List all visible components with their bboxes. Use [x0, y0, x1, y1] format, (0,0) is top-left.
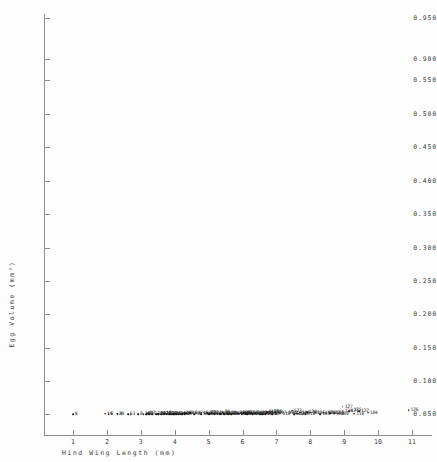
- data-point-label: 3: [132, 412, 135, 417]
- data-point-marker: [338, 413, 340, 415]
- data-point-marker: [211, 412, 213, 414]
- data-point-label: 122: [361, 409, 369, 414]
- data-point-marker: [237, 413, 239, 415]
- data-point-layer: 9645381272111020193133303837353936343241…: [0, 0, 437, 462]
- data-point-marker: [320, 413, 322, 415]
- data-point-label: 14: [145, 411, 150, 416]
- data-point-marker: [158, 413, 160, 415]
- data-point-marker: [185, 413, 187, 415]
- data-point-label: 111: [322, 412, 330, 417]
- x-axis-title: Hind Wing Length (mm): [62, 449, 176, 457]
- data-point-label: 20: [119, 411, 124, 416]
- data-point-label: 123: [294, 409, 302, 414]
- data-point-label: 119: [273, 409, 281, 414]
- data-point-label: 17: [150, 411, 155, 416]
- data-point-marker: [130, 413, 132, 415]
- y-axis-title: Egg Volume (mm³): [8, 249, 16, 359]
- data-point-marker: [177, 413, 179, 415]
- data-point-marker: [240, 412, 242, 414]
- data-point-label: 15: [160, 411, 165, 416]
- data-point-marker: [255, 412, 257, 414]
- data-point-marker: [306, 411, 308, 413]
- data-point-marker: [291, 410, 293, 412]
- data-point-label: 13: [216, 411, 221, 416]
- data-point-marker: [142, 413, 144, 415]
- data-point-label: 46: [203, 411, 208, 416]
- data-point-label: 116: [282, 412, 290, 417]
- data-point-marker: [173, 413, 175, 415]
- data-point-marker: [408, 409, 410, 411]
- data-point-label: 47: [198, 411, 203, 416]
- data-point-label: 49: [188, 411, 193, 416]
- data-point-marker: [268, 411, 270, 413]
- data-point-label: 90: [231, 411, 236, 416]
- data-point-marker: [271, 411, 273, 413]
- data-point-label: 126: [410, 408, 418, 413]
- data-point-marker: [104, 413, 106, 415]
- data-point-label: 95: [225, 410, 230, 415]
- data-point-marker: [259, 412, 261, 414]
- data-point-label: 125: [353, 407, 361, 412]
- data-point-marker: [351, 409, 353, 411]
- data-point-marker: [116, 413, 118, 415]
- data-point-marker: [72, 413, 74, 415]
- data-point-label: 9: [75, 412, 78, 417]
- data-point-marker: [342, 410, 344, 412]
- data-point-label: 104: [370, 410, 378, 415]
- data-point-label: 19: [107, 412, 112, 417]
- scatter-plot-figure: 0.0500.1000.1500.2000.2500.3000.3500.400…: [0, 0, 437, 462]
- data-point-label: 127: [345, 404, 353, 409]
- data-point-marker: [333, 413, 335, 415]
- data-point-marker: [214, 412, 216, 414]
- data-point-label: 94: [243, 410, 248, 415]
- data-point-marker: [342, 406, 344, 408]
- data-point-label: 120: [309, 410, 317, 415]
- data-point-marker: [222, 412, 224, 414]
- data-point-marker: [137, 413, 139, 415]
- data-point-label: 18: [166, 411, 171, 416]
- data-point-marker: [127, 413, 129, 415]
